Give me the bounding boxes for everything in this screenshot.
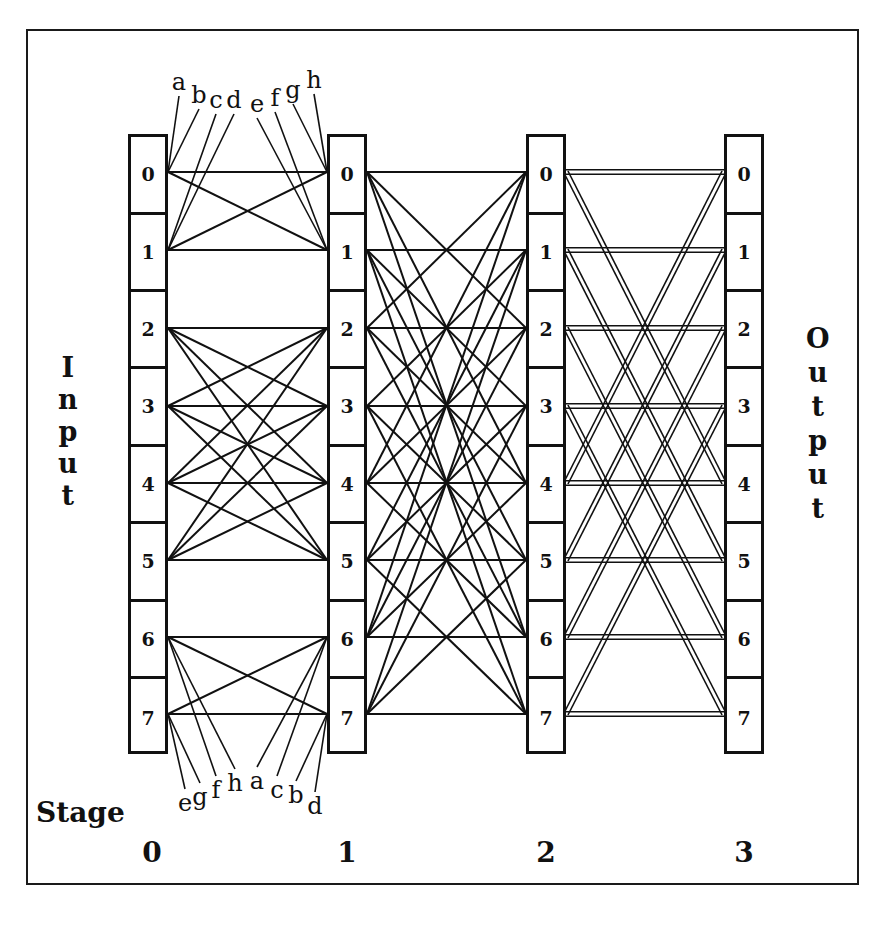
stage-1-node-5: 5 — [330, 524, 364, 602]
label-leader-line — [168, 714, 200, 783]
stage-0-column: 01234567 — [128, 134, 168, 754]
wire-s2-s3 — [564, 407, 722, 715]
multistage-network-diagram: I n p u t O u t p u t 012345670123456701… — [0, 0, 884, 930]
wire-label-a: a — [172, 70, 186, 94]
wire-label-h: h — [306, 68, 321, 92]
stage-2-node-0: 0 — [529, 137, 563, 215]
stage-0-node-7: 7 — [131, 679, 165, 757]
stage-1-node-2: 2 — [330, 292, 364, 370]
stage-3-node-3: 3 — [727, 369, 761, 447]
stage-1-node-4: 4 — [330, 447, 364, 525]
stage-3-column: 01234567 — [724, 134, 764, 754]
label-leader-line — [257, 637, 327, 767]
stage-number-2: 2 — [526, 836, 566, 869]
wire-s2-s3 — [568, 405, 726, 713]
stage-3-node-0: 0 — [727, 137, 761, 215]
stage-2-node-6: 6 — [529, 601, 563, 679]
wire-label-e: e — [178, 791, 192, 815]
label-leader-line — [168, 714, 185, 789]
stage-2-node-5: 5 — [529, 524, 563, 602]
stage-1-node-7: 7 — [330, 679, 364, 757]
input-letter: n — [58, 384, 78, 416]
input-letter: t — [62, 480, 74, 512]
wire-label-g: g — [192, 785, 207, 809]
stage-0-node-1: 1 — [131, 214, 165, 292]
wire-label-b: b — [191, 83, 206, 107]
wire-label-d: d — [226, 88, 241, 112]
stage-number-1: 1 — [327, 836, 367, 869]
wire-label-a: a — [250, 769, 264, 793]
wire-label-b: b — [288, 783, 303, 807]
label-leader-line — [257, 118, 327, 250]
stage-number-0: 0 — [132, 836, 172, 869]
wire-s2-s3 — [568, 407, 726, 715]
stage-3-node-2: 2 — [727, 292, 761, 370]
wire-label-c: c — [270, 778, 283, 802]
wire-label-f: f — [271, 86, 280, 110]
output-letter: O — [806, 322, 830, 356]
stage-0-node-3: 3 — [131, 369, 165, 447]
stage-3-node-7: 7 — [727, 679, 761, 757]
stage-number-3: 3 — [724, 836, 764, 869]
stage-1-column: 01234567 — [327, 134, 367, 754]
wire-label-h: h — [227, 771, 242, 795]
label-leader-line — [168, 114, 234, 250]
output-letter: u — [808, 356, 828, 390]
input-letter: p — [58, 416, 77, 448]
stage-2-column: 01234567 — [526, 134, 566, 754]
stage-2-node-3: 3 — [529, 369, 563, 447]
stage-3-node-4: 4 — [727, 447, 761, 525]
stage-0-node-6: 6 — [131, 601, 165, 679]
wire-label-d: d — [307, 794, 322, 818]
output-letter: p — [808, 424, 827, 458]
stage-caption: Stage — [36, 796, 125, 829]
stage-1-node-6: 6 — [330, 601, 364, 679]
stage-0-node-4: 4 — [131, 447, 165, 525]
wire-s2-s3 — [568, 173, 726, 484]
wire-s2-s3 — [564, 405, 722, 713]
input-letter: u — [58, 448, 78, 480]
output-letter: u — [808, 458, 828, 492]
wire-label-f: f — [212, 778, 221, 802]
output-letter: t — [812, 492, 824, 526]
stage-3-node-1: 1 — [727, 214, 761, 292]
stage-2-node-1: 1 — [529, 214, 563, 292]
wire-s2-s3 — [568, 251, 726, 561]
input-letter: I — [62, 352, 75, 384]
wire-s2-s3 — [564, 329, 722, 638]
wire-s2-s3 — [568, 329, 726, 638]
stage-3-node-5: 5 — [727, 524, 761, 602]
wire-label-e: e — [250, 92, 264, 116]
stage-0-node-5: 5 — [131, 524, 165, 602]
stage-0-node-2: 2 — [131, 292, 165, 370]
stage-1-node-0: 0 — [330, 137, 364, 215]
stage-0-node-0: 0 — [131, 137, 165, 215]
output-label: O u t p u t — [806, 322, 830, 526]
label-leader-line — [168, 637, 235, 769]
wire-label-c: c — [209, 88, 222, 112]
stage-3-node-6: 6 — [727, 601, 761, 679]
wire-s2-s3 — [564, 251, 722, 561]
output-letter: t — [812, 390, 824, 424]
stage-1-node-1: 1 — [330, 214, 364, 292]
input-label: I n p u t — [58, 352, 78, 512]
stage-2-node-4: 4 — [529, 447, 563, 525]
stage-2-node-7: 7 — [529, 679, 563, 757]
stage-2-node-2: 2 — [529, 292, 563, 370]
wire-label-g: g — [285, 78, 300, 102]
stage-1-node-3: 3 — [330, 369, 364, 447]
wire-s2-s3 — [564, 173, 722, 484]
